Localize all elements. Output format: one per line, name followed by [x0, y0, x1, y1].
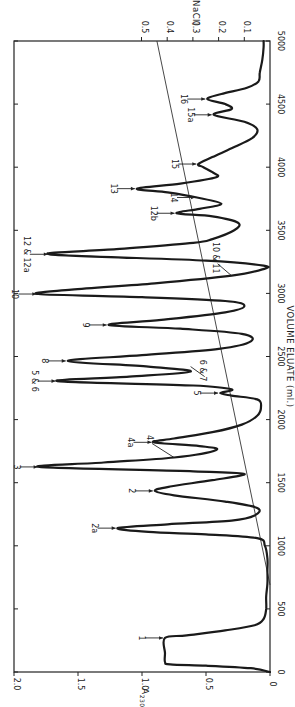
peak-label: 15a — [186, 107, 195, 122]
arrowhead-icon — [192, 162, 196, 166]
y-tick-label: 1.5 — [76, 678, 85, 691]
arrowhead-icon — [214, 391, 218, 395]
arrowhead-icon — [149, 489, 153, 493]
x-tick-label: 4500 — [276, 94, 285, 114]
x-tick-label: 4000 — [276, 157, 285, 177]
peak-label: 4a — [126, 437, 135, 447]
arrowhead-icon — [201, 97, 205, 101]
x-tick-label: 3500 — [276, 220, 285, 240]
peak-label: 16 — [179, 94, 188, 104]
arrowhead-icon — [131, 187, 135, 191]
arrowhead-icon — [112, 526, 116, 530]
peak-label: 14 — [169, 192, 178, 202]
peak-label: 2a — [90, 523, 99, 533]
absorbance-trace — [35, 41, 270, 672]
peak-label: 8 — [40, 358, 49, 363]
arrowhead-icon — [148, 441, 152, 445]
y2-axis-title: [NaCl] — [191, 0, 201, 26]
peak-label: 10 — [10, 289, 19, 299]
plot-frame — [14, 41, 270, 672]
y-tick-label: 0 — [268, 681, 277, 686]
chromatogram-chart: 0500100015002000250030003500400045005000… — [0, 0, 295, 707]
arrowhead-icon — [171, 211, 175, 215]
y2-tick-label: 0.5 — [140, 21, 149, 34]
peak-label: 5 — [192, 391, 201, 396]
peak-label: 4 — [145, 435, 154, 440]
y-tick-label: 0.5 — [204, 678, 213, 691]
x-tick-label: 0 — [276, 669, 285, 674]
peak-label: 3 — [12, 464, 21, 469]
peak-label: 12 & 12a — [22, 236, 31, 273]
x-tick-label: 500 — [276, 601, 285, 616]
y2-tick-label: 0.2 — [217, 21, 226, 34]
x-tick-label: 1500 — [276, 473, 285, 493]
arrowhead-icon — [159, 636, 163, 640]
peak-label: 10 & 11 — [211, 242, 220, 274]
a230-trace — [35, 41, 270, 672]
arrowhead-icon — [103, 323, 107, 327]
x-tick-label: 2000 — [276, 409, 285, 429]
peak-annotations: 12a2344a55 & 66 & 7891010 & 1112 & 12a12… — [10, 94, 231, 641]
arrowhead-icon — [62, 359, 66, 363]
peak-label: 13 — [109, 184, 118, 194]
peak-arrow — [152, 443, 174, 457]
peak-label: 1 — [137, 635, 146, 640]
x-tick-label: 3000 — [276, 283, 285, 303]
peak-label: 15 — [170, 159, 179, 169]
plot-border — [14, 41, 270, 672]
x-axis-title: VOLUME ELUATE (ml.) — [285, 305, 295, 407]
y2-tick-label: 0.1 — [242, 21, 251, 34]
peak-label: 9 — [81, 322, 90, 327]
peak-label: 6 & 7 — [198, 360, 207, 382]
y-tick-label: 2.0 — [12, 678, 21, 691]
x-tick-label: 5000 — [276, 31, 285, 51]
peak-label: 5 & 6 — [30, 370, 39, 392]
y2-tick-label: 0.4 — [165, 21, 174, 34]
arrowhead-icon — [52, 379, 56, 383]
y-axis-title: A230 — [139, 688, 150, 707]
peak-label: 12b — [149, 206, 158, 221]
x-tick-label: 1000 — [276, 536, 285, 556]
x-tick-label: 2500 — [276, 346, 285, 366]
arrowhead-icon — [208, 113, 212, 117]
peak-label: 2 — [127, 488, 136, 493]
